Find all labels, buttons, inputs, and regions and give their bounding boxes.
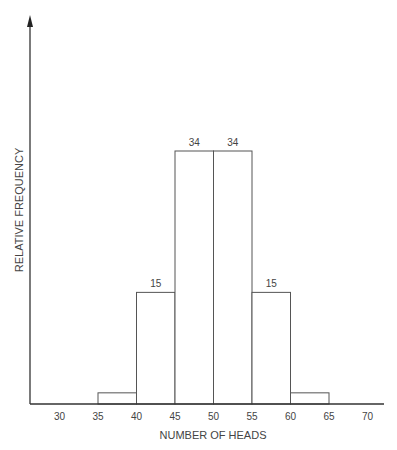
histogram-chart: 15343415303540455055606570NUMBER OF HEAD… <box>0 0 397 450</box>
x-tick-label: 35 <box>92 411 104 422</box>
bar-value-label: 34 <box>227 137 239 148</box>
x-tick-label: 70 <box>362 411 374 422</box>
bar-value-label: 34 <box>189 137 201 148</box>
x-axis-label: NUMBER OF HEADS <box>160 429 267 441</box>
x-tick-label: 60 <box>285 411 297 422</box>
bar-value-label: 15 <box>266 278 278 289</box>
bar-value-label: 15 <box>150 278 162 289</box>
x-tick-label: 55 <box>246 411 258 422</box>
x-tick-label: 40 <box>131 411 143 422</box>
histogram-bar <box>214 151 253 404</box>
histogram-bar <box>98 393 137 404</box>
x-tick-label: 45 <box>169 411 181 422</box>
y-axis-label: RELATIVE FREQUENCY <box>13 147 25 272</box>
y-axis-arrow-icon <box>27 15 33 27</box>
x-tick-label: 65 <box>323 411 335 422</box>
histogram-bar <box>291 393 330 404</box>
x-tick-label: 30 <box>54 411 66 422</box>
x-tick-label: 50 <box>208 411 220 422</box>
histogram-bar <box>252 292 291 404</box>
histogram-bar <box>175 151 214 404</box>
histogram-bar <box>137 292 176 404</box>
